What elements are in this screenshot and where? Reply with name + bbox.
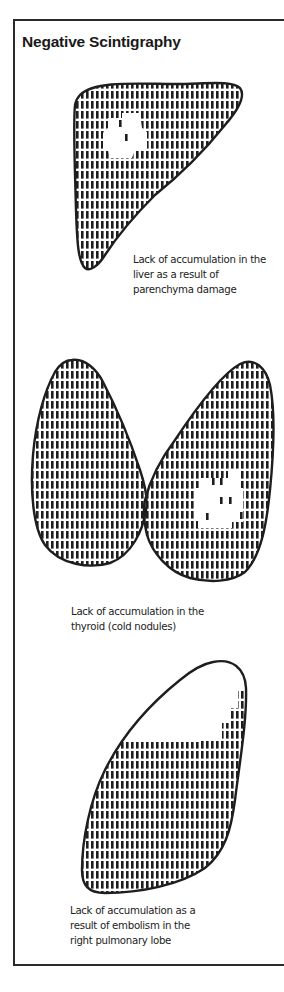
thyroid-caption: Lack of accumulation in the thyroid (col…	[71, 604, 204, 634]
scintigraphy-illustrations	[0, 0, 284, 992]
caption-line: Lack of accumulation as a	[70, 903, 195, 918]
caption-line: liver as a result of	[133, 267, 266, 282]
liver-illustration	[70, 80, 250, 280]
lung-caption: Lack of accumulation as a result of embo…	[70, 903, 195, 948]
caption-line: result of embolism in the	[70, 918, 195, 933]
lung-illustration	[70, 661, 260, 900]
caption-line: Lack of accumulation in the	[71, 604, 204, 619]
caption-line: thyroid (cold nodules)	[71, 619, 204, 634]
liver-caption: Lack of accumulation in the liver as a r…	[133, 252, 266, 297]
caption-line: right pulmonary lobe	[70, 933, 195, 948]
caption-line: parenchyma damage	[133, 282, 266, 297]
thyroid-illustration	[25, 355, 280, 590]
caption-line: Lack of accumulation in the	[133, 252, 266, 267]
